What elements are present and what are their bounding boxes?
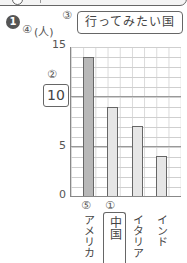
unit-marker: ④: [22, 23, 32, 36]
y-axis-unit: (人): [34, 23, 54, 39]
problem-number-badge: 1: [6, 15, 20, 29]
category-label-italy: イタリア: [131, 214, 143, 258]
bar-india: [156, 156, 167, 196]
header-strip: [0, 0, 187, 6]
title-marker: ③: [62, 9, 72, 22]
y-tick-0: 0: [52, 188, 66, 201]
chart-title: 行ってみたい国: [77, 11, 183, 34]
y-tick-10-answer-box: 10: [43, 84, 69, 107]
answer-marker: ②: [47, 68, 57, 81]
first-bar-marker: ⑤: [81, 199, 91, 212]
bar-china: [107, 107, 118, 196]
bar-italy: [132, 126, 143, 196]
y-tick-5: 5: [52, 139, 66, 152]
header-pill: [0, 0, 187, 6]
category-label-america: アメリカ: [82, 214, 94, 258]
category-label-china: 中国: [107, 216, 121, 240]
second-bar-marker: ①: [105, 199, 115, 212]
header-divider: [40, 0, 41, 3]
bar-chart-plot: [70, 47, 181, 197]
category-label-india: インド: [155, 214, 167, 247]
bar-america: [83, 57, 94, 196]
y-tick-15: 15: [52, 38, 66, 51]
